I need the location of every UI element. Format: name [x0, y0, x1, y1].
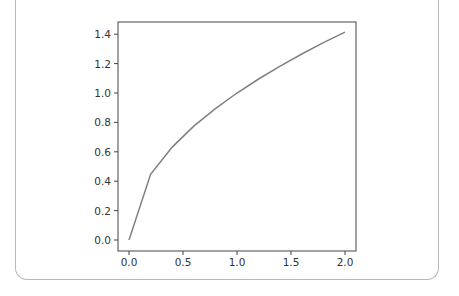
x-tick-label: 0.5	[175, 256, 192, 268]
x-tick-label: 1.5	[283, 256, 300, 268]
y-tick-label: 0.0	[94, 234, 111, 246]
x-tick-label: 0.0	[121, 256, 138, 268]
x-axis: 0.00.51.01.52.0	[121, 251, 354, 268]
y-tick-label: 0.8	[94, 116, 111, 128]
y-tick-label: 0.2	[94, 205, 111, 217]
y-tick-label: 0.6	[94, 146, 111, 158]
y-tick-label: 1.2	[94, 58, 111, 70]
y-axis: 0.00.20.40.60.81.01.21.4	[94, 28, 118, 246]
line-chart: 0.00.20.40.60.81.01.21.4 0.00.51.01.52.0	[0, 0, 459, 296]
x-tick-label: 2.0	[337, 256, 354, 268]
plot-area	[118, 22, 356, 251]
y-tick-label: 0.4	[94, 175, 111, 187]
y-tick-label: 1.4	[94, 28, 111, 40]
y-tick-label: 1.0	[94, 87, 111, 99]
x-tick-label: 1.0	[229, 256, 246, 268]
